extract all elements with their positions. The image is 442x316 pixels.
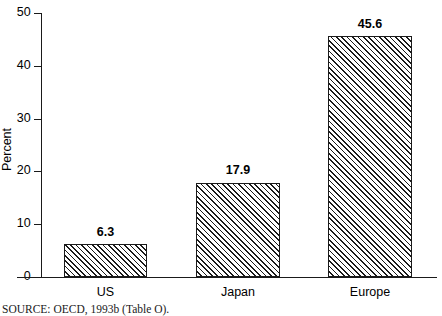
y-tick-label-40: 40: [3, 59, 31, 72]
bar-us: [64, 244, 147, 277]
y-tick-label-20-wrap: 20: [0, 164, 31, 177]
y-tick-label-20: 20: [3, 164, 31, 177]
y-tick-10: [34, 224, 42, 225]
x-axis-line: [17, 277, 437, 278]
y-tick-30: [34, 119, 42, 120]
y-tick-label-50-wrap: 50: [0, 6, 31, 19]
y-tick-label-30: 30: [3, 112, 31, 125]
y-tick-label-40-wrap: 40: [0, 59, 31, 72]
y-tick-40: [34, 66, 42, 67]
y-tick-20: [34, 171, 42, 172]
y-tick-label-10: 10: [3, 217, 31, 230]
y-tick-label-30-wrap: 30: [0, 112, 31, 125]
bar-value-japan: 17.9: [196, 164, 280, 177]
y-tick-label-10-wrap: 10: [0, 217, 31, 230]
source-note: SOURCE: OECD, 1993b (Table O).: [2, 303, 169, 316]
bar-value-europe: 45.6: [328, 18, 412, 31]
bar-europe: [328, 36, 412, 277]
x-category-label-us: US: [64, 285, 147, 299]
y-tick-label-50: 50: [3, 6, 31, 19]
y-axis-line: [41, 13, 42, 277]
x-category-label-europe: Europe: [328, 285, 412, 299]
x-category-label-japan: Japan: [196, 285, 280, 299]
y-tick-50: [34, 13, 42, 14]
bar-japan: [196, 183, 280, 278]
bar-value-us: 6.3: [64, 226, 147, 239]
